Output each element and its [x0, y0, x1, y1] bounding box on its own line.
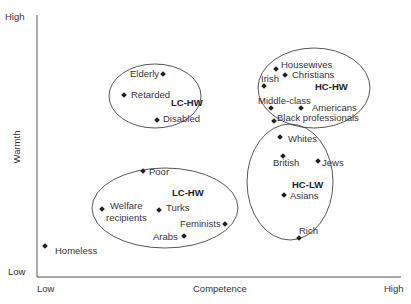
point-label-welfare-recipients-line1: Welfare — [110, 200, 143, 211]
point-label-middle-class: Middle-class — [258, 95, 311, 106]
point-label-turks: Turks — [166, 202, 190, 213]
point-label-poor: Poor — [149, 166, 169, 177]
cluster-label-top-right: HC-HW — [315, 81, 348, 92]
point-marker-feminists — [222, 221, 228, 227]
y-axis-title: Warmth — [11, 131, 22, 164]
point-marker-elderly — [160, 71, 166, 77]
cluster-label-top-left: LC-HW — [171, 97, 203, 108]
point-marker-whites — [277, 134, 283, 140]
point-marker-housewives — [273, 66, 279, 72]
y-axis-high-label: High — [5, 11, 25, 22]
point-label-black-professionals: Black professionals — [277, 112, 359, 123]
point-marker-rich — [296, 235, 302, 241]
x-axis-title: Competence — [193, 283, 247, 294]
point-marker-turks — [156, 207, 162, 213]
x-axis-low-label: Low — [37, 283, 55, 294]
point-marker-asians — [281, 192, 287, 198]
y-axis-low-label: Low — [8, 266, 26, 277]
cluster-label-bottom-left: LC-HW — [172, 187, 204, 198]
point-label-whites: Whites — [288, 133, 317, 144]
cluster-label-bottom-right: HC-LW — [292, 179, 323, 190]
point-marker-americans — [298, 105, 304, 111]
point-label-arabs: Arabs — [153, 231, 178, 242]
point-marker-disabled — [154, 117, 160, 123]
point-label-elderly: Elderly — [130, 68, 159, 79]
stereotype-content-chart: High Low Warmth Low Competence High Elde… — [0, 0, 411, 304]
point-label-rich: Rich — [299, 225, 318, 236]
point-label-retarded: Retarded — [131, 89, 170, 100]
point-marker-black-professionals — [271, 118, 277, 124]
point-label-irish: Irish — [261, 73, 279, 84]
point-label-welfare-recipients-line2: recipients — [106, 212, 147, 223]
point-marker-jews — [315, 158, 321, 164]
point-marker-homeless — [42, 243, 48, 249]
point-label-british: British — [273, 157, 299, 168]
point-marker-irish — [261, 83, 267, 89]
point-label-disabled: Disabled — [163, 113, 200, 124]
point-label-asians: Asians — [290, 190, 319, 201]
point-marker-middle-class — [268, 105, 274, 111]
point-marker-christians — [282, 72, 288, 78]
x-axis-high-label: High — [384, 283, 404, 294]
point-marker-arabs — [181, 233, 187, 239]
point-label-homeless: Homeless — [55, 245, 97, 256]
point-marker-retarded — [121, 92, 127, 98]
point-label-jews: Jews — [322, 157, 344, 168]
point-marker-welfare-recipients — [99, 206, 105, 212]
point-label-feminists: Feminists — [180, 218, 221, 229]
point-label-christians: Christians — [292, 69, 334, 80]
